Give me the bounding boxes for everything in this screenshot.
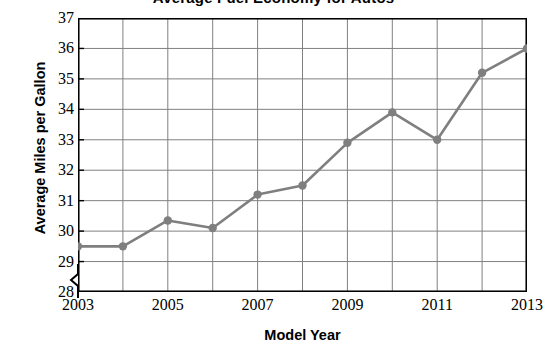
data-point-marker <box>78 242 82 250</box>
data-point-marker <box>478 69 486 77</box>
y-tick-label: 35 <box>40 71 74 87</box>
x-tick-label: 2007 <box>228 296 288 314</box>
data-point-marker <box>164 216 172 224</box>
chart-title: Average Fuel Economy for Autos <box>0 0 547 6</box>
y-tick-label: 32 <box>40 162 74 178</box>
x-axis-tick-labels: 200320052007200920112013 <box>0 296 547 326</box>
data-point-marker <box>253 190 261 198</box>
plot-area <box>78 18 527 292</box>
y-tick-label: 30 <box>40 223 74 239</box>
grid-lines <box>78 18 527 292</box>
data-point-marker <box>388 108 396 116</box>
y-tick-label: 31 <box>40 193 74 209</box>
y-tick-label: 34 <box>40 101 74 117</box>
x-tick-label: 2003 <box>48 296 108 314</box>
y-tick-label: 37 <box>40 10 74 26</box>
y-tick-label: 33 <box>40 132 74 148</box>
data-point-marker <box>433 136 441 144</box>
x-tick-label: 2013 <box>497 296 547 314</box>
data-point-marker <box>119 242 127 250</box>
data-point-marker <box>209 224 217 232</box>
line-chart-figure: Average Fuel Economy for Autos Average M… <box>0 0 547 356</box>
y-tick-label: 36 <box>40 40 74 56</box>
data-point-marker <box>298 181 306 189</box>
x-tick-label: 2011 <box>407 296 467 314</box>
x-tick-label: 2005 <box>138 296 198 314</box>
x-axis-title: Model Year <box>78 327 527 343</box>
data-point-marker <box>343 139 351 147</box>
x-tick-label: 2009 <box>317 296 377 314</box>
y-axis-break-icon <box>62 262 86 300</box>
plot-svg <box>78 18 527 292</box>
